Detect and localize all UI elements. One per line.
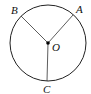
label-a: A xyxy=(75,3,83,15)
label-c: C xyxy=(43,83,51,94)
radius-oc xyxy=(47,43,48,81)
diagram-svg: A B C O xyxy=(0,0,91,94)
circle-diagram: A B C O xyxy=(0,0,91,94)
label-b: B xyxy=(11,4,18,16)
label-o: O xyxy=(52,41,60,53)
radius-oa xyxy=(48,15,73,43)
center-point-o xyxy=(46,41,50,45)
radius-ob xyxy=(21,16,48,43)
